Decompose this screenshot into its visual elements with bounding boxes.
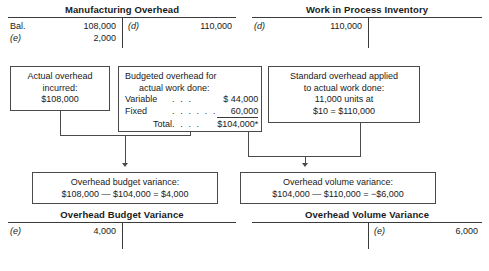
t-account-title-overhead-volume-variance: Overhead Volume Variance [252,209,482,220]
t-account-row: (d) 110,000 [128,21,232,33]
actual-overhead-line-1: Actual overhead [17,71,103,83]
entry-ref: Bal. [10,21,26,33]
budget-total-row: Total . . . . $104,000* [125,118,258,131]
budget-line-amount: $ 44,000 [217,94,258,106]
budget-line-leader: . . . [172,94,217,106]
entry-amount: 2,000 [93,33,116,45]
box-overhead-volume-variance: Overhead volume variance: $104,000 — $11… [240,172,436,204]
t-account-debit-side: (e) 4,000 [10,226,116,254]
connector-right-bracket-stem [305,156,306,163]
t-account-debit-side: (d) 110,000 [254,21,362,49]
budget-line-item: Variable . . . $ 44,000 [125,94,258,106]
t-account-credit-side: (e) 6,000 [374,226,478,254]
actual-overhead-amount: $108,000 [17,94,103,106]
t-account-row: (e) 2,000 [10,33,116,45]
t-account-overhead-budget-variance: Overhead Budget Variance (e) 4,000 [8,209,236,249]
t-account-title-work-in-process-inventory: Work in Process Inventory [252,4,482,15]
budget-total-leader: . . . . [172,118,217,131]
volume-variance-title: Overhead volume variance: [247,177,429,189]
arrowhead-volume-variance [302,163,308,167]
box-actual-overhead-incurred: Actual overhead incurred: $108,000 [10,66,110,111]
box-standard-overhead-applied: Standard overhead applied to actual work… [268,66,420,123]
t-account-row: (e) 6,000 [374,226,478,238]
t-account-row: (e) 4,000 [10,226,116,238]
t-account-work-in-process-inventory: Work in Process Inventory (d) 110,000 [252,4,482,48]
budgeted-overhead-table: Variable . . . $ 44,000 Fixed . . . . . … [125,94,258,131]
budget-line-amount: 60,000 [217,106,258,118]
entry-amount: 110,000 [330,21,362,33]
entry-ref: (e) [374,226,385,238]
t-account-row: Bal. 108,000 [10,21,116,33]
budget-line-label: Variable [125,94,172,106]
t-account-body: (e) 6,000 [252,223,482,249]
budget-total-label: Total [125,118,172,131]
t-account-center-divider [368,223,369,249]
entry-amount: 4,000 [93,226,116,238]
connector-left-bracket-stem [125,135,126,163]
entry-ref: (e) [10,33,21,45]
t-account-title-manufacturing-overhead: Manufacturing Overhead [8,4,236,15]
volume-variance-formula: $104,000 — $110,000 = −$6,000 [247,189,429,201]
entry-amount: 110,000 [200,21,232,33]
standard-applied-line-3: 11,000 units at [275,94,413,106]
entry-ref: (e) [10,226,21,238]
box-budgeted-overhead: Budgeted overhead for actual work done: … [118,66,262,132]
overhead-variance-diagram: Manufacturing Overhead Bal. 108,000 (e) … [0,0,489,271]
budgeted-overhead-heading-1: Budgeted overhead for [125,71,255,83]
t-account-body: (d) 110,000 [252,18,482,48]
budget-line-item: Fixed . . . . . . 60,000 [125,106,258,118]
t-account-overhead-volume-variance: Overhead Volume Variance (e) 6,000 [252,209,482,249]
entry-amount: 6,000 [455,226,478,238]
t-account-title-overhead-budget-variance: Overhead Budget Variance [8,209,236,220]
t-account-center-divider [122,18,123,48]
t-account-manufacturing-overhead: Manufacturing Overhead Bal. 108,000 (e) … [8,4,236,48]
t-account-center-divider [122,223,123,249]
connector-budgeted-overhead-right-down [248,132,249,156]
arrowhead-budget-variance [122,163,128,167]
budget-line-leader: . . . . . . [172,106,217,118]
entry-ref: (d) [128,21,139,33]
budget-variance-formula: $108,000 — $104,000 = $4,000 [39,189,211,201]
connector-standard-applied-down [360,123,361,156]
budget-line-label: Fixed [125,106,172,118]
t-account-credit-side: (d) 110,000 [128,21,232,49]
budget-total-amount: $104,000* [217,118,258,131]
budgeted-overhead-heading-2: actual work done: [125,83,255,95]
standard-applied-line-2: to actual work done: [275,83,413,95]
connector-actual-overhead-down [60,111,61,135]
budget-variance-title: Overhead budget variance: [39,177,211,189]
actual-overhead-line-2: incurred: [17,83,103,95]
t-account-body: Bal. 108,000 (e) 2,000 (d) 110,000 [8,18,236,48]
t-account-center-divider [368,18,369,48]
standard-applied-line-4: $10 = $110,000 [275,106,413,118]
t-account-credit-side [128,226,232,254]
standard-applied-line-1: Standard overhead applied [275,71,413,83]
t-account-debit-side: Bal. 108,000 (e) 2,000 [10,21,116,49]
entry-ref: (d) [254,21,265,33]
t-account-row: (d) 110,000 [254,21,362,33]
t-account-body: (e) 4,000 [8,223,236,249]
box-overhead-budget-variance: Overhead budget variance: $108,000 — $10… [32,172,218,204]
entry-amount: 108,000 [83,21,116,33]
t-account-debit-side [254,226,362,254]
